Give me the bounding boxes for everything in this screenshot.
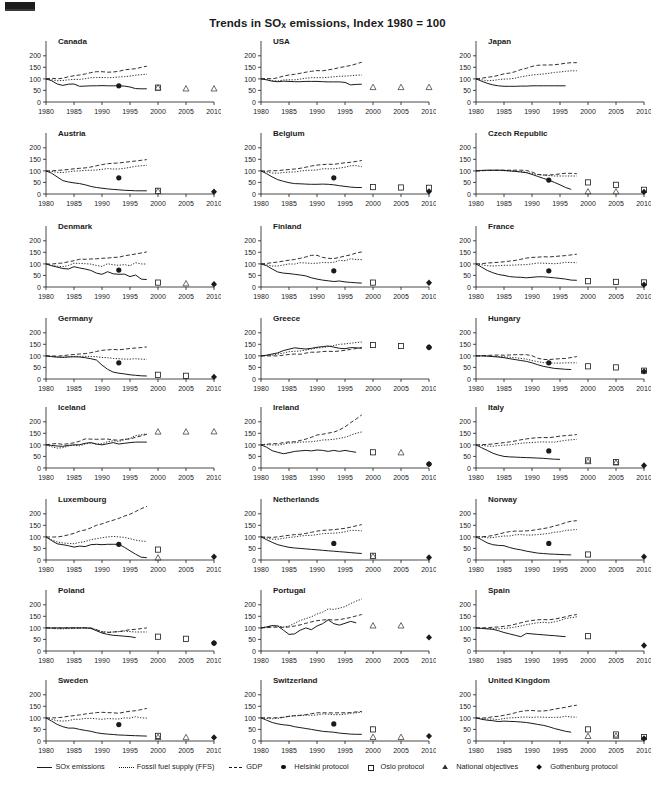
panel-title: Canada xyxy=(58,37,87,46)
y-tick-label: 50 xyxy=(248,453,256,460)
panel-iceland: 0501001502001980198519901995200020052010… xyxy=(6,402,221,494)
x-tick-label: 1995 xyxy=(337,474,353,481)
series-sox-emissions xyxy=(46,171,147,191)
series-sox-emissions xyxy=(46,718,147,736)
x-tick-label: 2000 xyxy=(580,747,596,754)
series-sox-emissions xyxy=(46,628,136,638)
chart-legend: SOx emissionsFossil fuel supply (FFS)GDP… xyxy=(0,762,655,771)
y-tick-label: 0 xyxy=(37,99,41,106)
series-sox-emissions xyxy=(46,356,147,376)
x-tick-label: 2005 xyxy=(393,108,409,115)
y-tick-label: 50 xyxy=(33,636,41,643)
chart-svg: 0501001502001980198519901995200020052010 xyxy=(221,585,436,677)
marker-gothenburg-protocol xyxy=(426,461,432,467)
series-fossil-fuel-supply xyxy=(46,74,147,80)
x-tick-label: 1980 xyxy=(468,474,484,481)
filled-diamond-icon xyxy=(532,763,547,771)
x-tick-label: 2010 xyxy=(636,747,651,754)
x-tick-label: 2000 xyxy=(365,474,381,481)
x-tick-label: 1990 xyxy=(524,108,540,115)
marker-helsinki-protocol xyxy=(116,83,121,88)
y-tick-label: 50 xyxy=(463,87,471,94)
y-tick-label: 0 xyxy=(252,99,256,106)
x-tick-label: 1985 xyxy=(281,566,297,573)
x-tick-label: 2005 xyxy=(393,566,409,573)
x-tick-label: 2010 xyxy=(206,566,221,573)
series-sox-emissions xyxy=(261,718,362,734)
marker-helsinki-protocol xyxy=(546,360,551,365)
y-tick-label: 50 xyxy=(248,726,256,733)
y-tick-label: 50 xyxy=(463,364,471,371)
x-tick-label: 2010 xyxy=(636,293,651,300)
x-tick-label: 1985 xyxy=(496,657,512,664)
chart-svg: 0501001502001980198519901995200020052010 xyxy=(436,128,651,220)
y-tick-label: 100 xyxy=(29,534,41,541)
y-tick-label: 50 xyxy=(33,545,41,552)
marker-helsinki-protocol xyxy=(546,268,551,273)
y-tick-label: 200 xyxy=(244,237,256,244)
marker-national-objectives xyxy=(398,623,404,628)
x-tick-label: 1990 xyxy=(524,200,540,207)
y-tick-label: 0 xyxy=(252,648,256,655)
x-tick-label: 1995 xyxy=(337,566,353,573)
panel-title: USA xyxy=(273,37,290,46)
chart-svg: 0501001502001980198519901995200020052010 xyxy=(436,402,651,494)
chart-svg: 0501001502001980198519901995200020052010 xyxy=(221,675,436,767)
legend-item-sox: SOx emissions xyxy=(37,762,104,771)
x-tick-label: 1980 xyxy=(468,657,484,664)
marker-helsinki-protocol xyxy=(331,268,336,273)
y-tick-label: 100 xyxy=(244,625,256,632)
y-tick-label: 150 xyxy=(244,430,256,437)
y-tick-label: 0 xyxy=(467,284,471,291)
x-tick-label: 2010 xyxy=(636,385,651,392)
x-tick-label: 1995 xyxy=(552,566,568,573)
marker-oslo-protocol xyxy=(155,280,160,285)
y-tick-label: 150 xyxy=(459,522,471,529)
panel-title: Czech Republic xyxy=(488,129,548,138)
y-tick-label: 50 xyxy=(248,545,256,552)
x-tick-label: 1990 xyxy=(309,747,325,754)
marker-national-objectives xyxy=(585,733,591,738)
x-tick-label: 2010 xyxy=(636,200,651,207)
y-tick-label: 50 xyxy=(463,636,471,643)
x-tick-label: 1990 xyxy=(309,566,325,573)
x-tick-label: 2005 xyxy=(608,108,624,115)
x-tick-label: 1990 xyxy=(524,657,540,664)
x-tick-label: 1985 xyxy=(281,747,297,754)
panel-title: Italy xyxy=(488,403,504,412)
x-tick-label: 2005 xyxy=(393,200,409,207)
x-tick-label: 1990 xyxy=(309,474,325,481)
x-tick-label: 2000 xyxy=(365,385,381,392)
series-sox-emissions xyxy=(476,628,566,637)
y-tick-label: 50 xyxy=(248,272,256,279)
y-tick-label: 50 xyxy=(33,726,41,733)
x-tick-label: 2005 xyxy=(608,566,624,573)
x-tick-label: 2000 xyxy=(580,293,596,300)
marker-helsinki-protocol xyxy=(546,448,551,453)
y-tick-label: 0 xyxy=(252,191,256,198)
panel-usa: 0501001502001980198519901995200020052010… xyxy=(221,36,436,128)
panel-france: 0501001502001980198519901995200020052010… xyxy=(436,221,651,313)
x-tick-label: 2010 xyxy=(206,474,221,481)
x-tick-label: 2000 xyxy=(365,200,381,207)
y-tick-label: 50 xyxy=(463,272,471,279)
series-sox-emissions xyxy=(261,171,362,188)
x-tick-label: 2000 xyxy=(150,566,166,573)
panel-czech-republic: 0501001502001980198519901995200020052010… xyxy=(436,128,651,220)
x-tick-label: 1990 xyxy=(309,200,325,207)
y-tick-label: 100 xyxy=(459,261,471,268)
x-tick-label: 2010 xyxy=(636,566,651,573)
x-tick-label: 1985 xyxy=(281,385,297,392)
marker-oslo-protocol xyxy=(585,279,590,284)
panel-title: Norway xyxy=(488,495,517,504)
x-tick-label: 2000 xyxy=(365,566,381,573)
legend-label: Oslo protocol xyxy=(381,762,425,771)
panel-norway: 0501001502001980198519901995200020052010… xyxy=(436,494,651,586)
series-fossil-fuel-supply xyxy=(261,599,362,628)
marker-helsinki-protocol xyxy=(116,722,121,727)
line-dashed-icon xyxy=(228,763,243,771)
series-fossil-fuel-supply xyxy=(476,439,577,446)
x-tick-label: 2000 xyxy=(365,747,381,754)
marker-helsinki-protocol xyxy=(546,178,551,183)
panel-united-kingdom: 0501001502001980198519901995200020052010… xyxy=(436,675,651,767)
